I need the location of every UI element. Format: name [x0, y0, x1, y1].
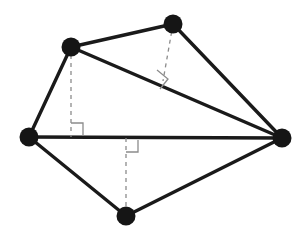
right-vertex	[273, 129, 292, 148]
top-vertex	[164, 15, 183, 34]
geometry-figure	[0, 0, 307, 239]
bottom-vertex	[117, 207, 136, 226]
diagram-root	[0, 0, 307, 239]
left-vertex	[20, 128, 39, 147]
upper-left-vertex	[62, 38, 81, 57]
diagonal-left-to-right	[29, 137, 282, 138]
